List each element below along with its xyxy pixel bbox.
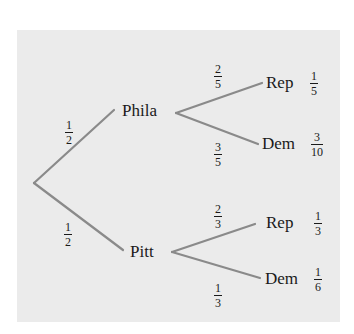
prob-pitt-rep: 2 3 [214, 203, 222, 230]
node-phila-dem: Dem [262, 135, 295, 152]
prob-root-phila: 1 2 [65, 119, 73, 146]
node-phila-rep: Rep [266, 74, 293, 91]
prob-root-pitt: 1 2 [64, 221, 72, 248]
edge-root-phila [34, 110, 114, 183]
tree-edges [0, 0, 354, 334]
joint-pitt-dem: 1 6 [314, 266, 322, 293]
edge-root-pitt [34, 183, 123, 250]
joint-phila-rep: 1 5 [310, 70, 318, 97]
prob-phila-rep: 2 5 [214, 63, 222, 90]
prob-pitt-dem: 1 3 [214, 282, 222, 309]
node-phila: Phila [122, 102, 157, 119]
edge-pitt-dem [172, 252, 260, 278]
joint-phila-dem: 3 10 [311, 131, 323, 158]
prob-phila-dem: 3 5 [214, 141, 222, 168]
node-pitt-rep: Rep [266, 214, 293, 231]
node-pitt-dem: Dem [265, 270, 298, 287]
joint-pitt-rep: 1 3 [314, 210, 322, 237]
node-pitt: Pitt [130, 243, 154, 260]
